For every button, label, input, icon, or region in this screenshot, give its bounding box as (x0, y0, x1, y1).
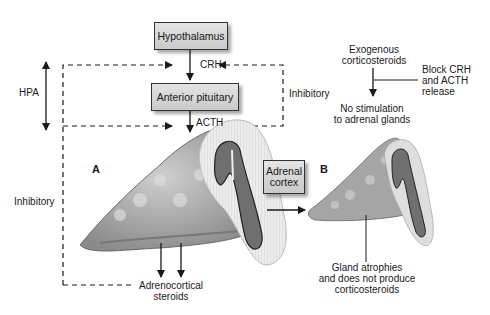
anterior-pituitary-box: Anterior pituitary (151, 83, 239, 111)
inhibitory-right-label: Inhibitory (289, 88, 330, 99)
panel-a-label: A (92, 164, 100, 175)
acth-label: ACTH (196, 117, 223, 128)
adrenal-cortex-box: Adrenal cortex (263, 160, 305, 194)
crh-label: CRH (200, 59, 222, 70)
block-crh-acth-label: Block CRH and ACTH release (422, 64, 471, 97)
adrenal-gland-a (80, 120, 286, 265)
adrenal-gland-b (308, 138, 433, 245)
exogenous-corticosteroids-label: Exogenous corticosteroids (333, 44, 415, 66)
hpa-label: HPA (19, 87, 39, 98)
gland-atrophies-label: Gland atrophies and does not produce cor… (313, 262, 421, 295)
hypothalamus-label: Hypothalamus (157, 30, 224, 42)
adrenal-cortex-line2: cortex (270, 177, 299, 188)
hypothalamus-box: Hypothalamus (154, 22, 228, 50)
adrenocortical-steroids-label: Adrenocortical steroids (130, 280, 212, 302)
inhibitory-left-label: Inhibitory (14, 196, 55, 207)
no-stimulation-label: No stimulation to adrenal glands (322, 103, 422, 125)
anterior-pituitary-label: Anterior pituitary (157, 91, 233, 103)
panel-b-label: B (320, 164, 328, 175)
